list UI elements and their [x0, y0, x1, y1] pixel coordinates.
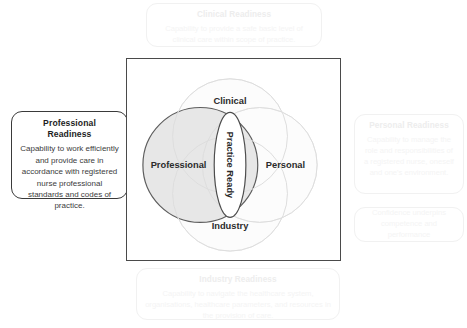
venn-label-personal: Personal	[266, 160, 305, 170]
callout-clinical-title: Clinical Readiness	[155, 10, 313, 20]
callout-professional-title: Professional Readiness	[20, 118, 119, 139]
callout-personal-title: Personal Readiness	[363, 121, 455, 131]
callout-professional-body: Capability to work efficiently and provi…	[20, 143, 119, 211]
venn-diagram-frame: Clinical Personal Industry Professional …	[126, 58, 341, 261]
callout-clinical-readiness: Clinical Readiness Capability to provide…	[146, 3, 322, 47]
callout-industry-body: Capability to navigate the healthcare sy…	[145, 289, 331, 321]
callout-professional-readiness: Professional Readiness Capability to wor…	[11, 111, 128, 199]
callout-confidence: Confidence underpins competence and perf…	[354, 207, 464, 242]
venn-label-professional: Professional	[151, 160, 207, 170]
callout-personal-readiness: Personal Readiness Capability to manage …	[354, 114, 464, 194]
venn-diagram: Clinical Personal Industry Professional …	[127, 59, 340, 260]
venn-label-practice-ready: Practice Ready	[225, 132, 235, 199]
callout-industry-title: Industry Readiness	[145, 275, 331, 285]
venn-label-industry: Industry	[212, 221, 250, 231]
callout-clinical-body: Capability to provide a safe basic level…	[155, 24, 313, 46]
venn-label-clinical: Clinical	[213, 96, 246, 106]
callout-personal-body: Capability to manage the role and respon…	[363, 135, 455, 178]
callout-industry-readiness: Industry Readiness Capability to navigat…	[136, 268, 340, 320]
callout-confidence-body: Confidence underpins competence and perf…	[363, 208, 455, 240]
